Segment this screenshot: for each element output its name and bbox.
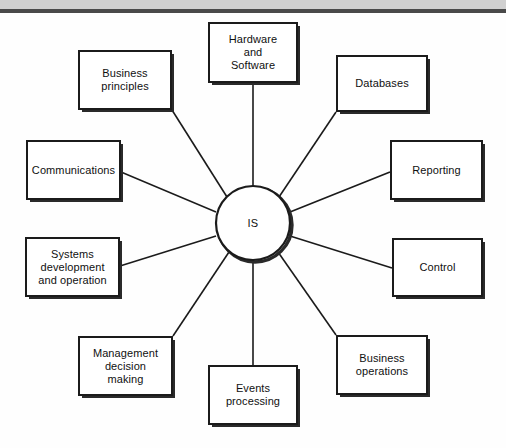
node-label-hardware-software: Hardware and Software: [225, 33, 282, 72]
connector-business-principles: [172, 110, 227, 197]
connector-reporting: [290, 172, 390, 212]
node-label-communications: Communications: [28, 164, 119, 177]
node-databases[interactable]: Databases: [336, 55, 428, 112]
node-business-principles[interactable]: Business principles: [78, 50, 172, 110]
node-label-databases: Databases: [351, 77, 413, 90]
node-label-management-decision: Management decision making: [89, 347, 162, 386]
diagram-canvas: IS Hardware and Software Business princi…: [0, 0, 506, 448]
connector-databases: [279, 112, 336, 197]
node-label-reporting: Reporting: [408, 164, 465, 177]
node-business-operations[interactable]: Business operations: [336, 335, 428, 395]
node-label-systems-development: Systems development and operation: [34, 248, 111, 287]
node-label-business-operations: Business operations: [352, 352, 412, 378]
hub-circle: [216, 186, 290, 260]
node-systems-development[interactable]: Systems development and operation: [25, 237, 120, 297]
connector-communications: [121, 172, 216, 212]
connector-management-decision: [173, 252, 229, 336]
node-events-processing[interactable]: Events processing: [208, 365, 298, 425]
node-communications[interactable]: Communications: [26, 140, 121, 200]
node-label-control: Control: [415, 261, 459, 274]
connector-control: [290, 236, 392, 268]
node-label-business-principles: Business principles: [97, 67, 152, 93]
node-hardware-software[interactable]: Hardware and Software: [208, 22, 298, 83]
node-reporting[interactable]: Reporting: [390, 140, 483, 200]
connector-systems-development: [120, 236, 216, 266]
node-control[interactable]: Control: [392, 238, 483, 297]
node-management-decision[interactable]: Management decision making: [78, 336, 173, 396]
node-label-events-processing: Events processing: [222, 382, 284, 408]
connector-business-operations: [278, 252, 336, 335]
